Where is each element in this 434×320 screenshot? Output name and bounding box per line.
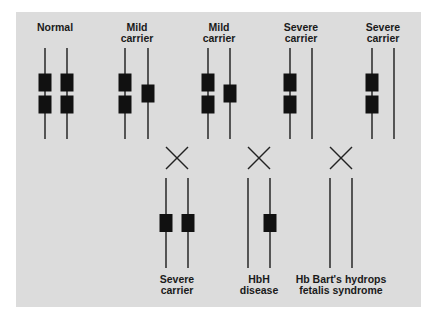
label-mild-carrier-1: Mild carrier bbox=[92, 22, 182, 44]
inheritance-diagram bbox=[0, 0, 434, 320]
parent-2-0-gene bbox=[202, 74, 215, 92]
offspring-1-1-gene bbox=[264, 214, 277, 232]
parent-0-1-gene bbox=[61, 96, 74, 114]
parent-1-1-gene bbox=[142, 85, 155, 103]
parent-0-0-gene bbox=[39, 74, 52, 92]
parent-1-0-gene bbox=[119, 96, 132, 114]
label-severe-carrier-1: Severe carrier bbox=[256, 22, 346, 44]
parent-1-0-gene bbox=[119, 74, 132, 92]
parent-4-0-gene bbox=[366, 96, 379, 114]
offspring-0-0-gene bbox=[160, 214, 173, 232]
label-normal: Normal bbox=[10, 22, 100, 33]
parent-3-0-gene bbox=[284, 74, 297, 92]
parent-3-0-gene bbox=[284, 96, 297, 114]
label-offspring-hb-barts: Hb Bart's hydrops fetalis syndrome bbox=[286, 274, 396, 296]
label-severe-carrier-2: Severe carrier bbox=[338, 22, 428, 44]
parent-2-0-gene bbox=[202, 96, 215, 114]
parent-4-0-gene bbox=[366, 74, 379, 92]
parent-0-0-gene bbox=[39, 96, 52, 114]
label-offspring-severe-carrier: Severe carrier bbox=[132, 274, 222, 296]
offspring-0-1-gene bbox=[182, 214, 195, 232]
parent-2-1-gene bbox=[224, 85, 237, 103]
parent-0-1-gene bbox=[61, 74, 74, 92]
label-mild-carrier-2: Mild carrier bbox=[174, 22, 264, 44]
